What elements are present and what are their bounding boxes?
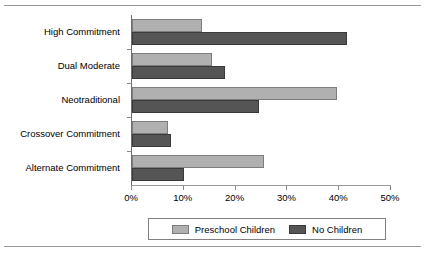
bar-no-children [132, 134, 171, 147]
y-axis-tick [127, 117, 131, 118]
bar-no-children [132, 168, 184, 181]
legend-label: No Children [312, 224, 362, 235]
y-axis-tick [127, 49, 131, 50]
bar-chart-figure: High CommitmentDual ModerateNeotradition… [0, 0, 425, 258]
x-axis-tick-label: 40% [318, 192, 358, 203]
x-axis-tick-label: 30% [266, 192, 306, 203]
bar-no-children [132, 100, 259, 113]
y-axis-tick [127, 83, 131, 84]
category-label: Neotraditional [0, 94, 120, 105]
bar-preschool-children [132, 155, 264, 168]
x-axis-line [131, 185, 390, 186]
x-axis-tick-label: 50% [370, 192, 410, 203]
x-axis-tick [235, 185, 236, 190]
x-axis-tick-label: 20% [215, 192, 255, 203]
legend-item: Preschool Children [172, 224, 275, 235]
legend-item: No Children [289, 224, 362, 235]
category-label: Alternate Commitment [0, 162, 120, 173]
bar-preschool-children [132, 121, 168, 134]
category-axis-labels: High CommitmentDual ModerateNeotradition… [0, 15, 126, 185]
legend-swatch-nochildren [289, 225, 306, 234]
bar-preschool-children [132, 19, 202, 32]
x-axis-tick [338, 185, 339, 190]
bar-preschool-children [132, 87, 337, 100]
bottom-divider-rule [4, 246, 421, 247]
chart-legend: Preschool ChildrenNo Children [148, 218, 386, 240]
x-axis-tick-label: 10% [163, 192, 203, 203]
x-axis-tick-label: 0% [111, 192, 151, 203]
legend-label: Preschool Children [195, 224, 275, 235]
bar-preschool-children [132, 53, 212, 66]
category-label: Dual Moderate [0, 60, 120, 71]
y-axis-tick [127, 151, 131, 152]
legend-swatch-preschool [172, 225, 189, 234]
top-divider-rule [4, 5, 421, 6]
bar-no-children [132, 66, 225, 79]
plot-area: 0%10%20%30%40%50% [131, 15, 390, 185]
category-label: Crossover Commitment [0, 128, 120, 139]
x-axis-tick [390, 185, 391, 190]
x-axis-tick [183, 185, 184, 190]
bar-no-children [132, 32, 347, 45]
x-axis-tick [131, 185, 132, 190]
category-label: High Commitment [0, 26, 120, 37]
x-axis-tick [286, 185, 287, 190]
